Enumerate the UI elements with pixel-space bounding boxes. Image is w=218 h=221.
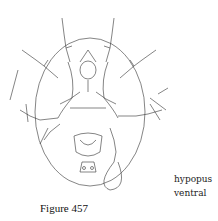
figure-caption: Figure 457: [40, 202, 88, 214]
figure-label-hypopus: hypopus: [174, 174, 212, 185]
figure-label-ventral: ventral: [174, 188, 206, 199]
